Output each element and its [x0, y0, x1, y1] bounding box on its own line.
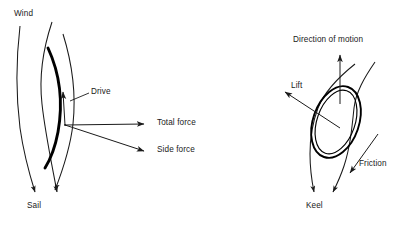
sailing-forces-diagram: Wind Drive Total force Side force Sail D… [0, 0, 405, 226]
lift-label: Lift [291, 82, 302, 90]
side-force-vector [65, 125, 144, 151]
drive-label: Drive [91, 88, 111, 96]
direction-of-motion-label: Direction of motion [293, 36, 363, 44]
keel-label: Keel [306, 202, 323, 210]
keel-streamline-left [310, 64, 355, 192]
keel-panel-group [285, 55, 378, 192]
diagram-canvas [0, 0, 405, 226]
total-force-label: Total force [157, 119, 196, 127]
total-force-vector [65, 124, 144, 125]
sail-label: Sail [27, 202, 41, 210]
sail-panel-group [17, 22, 144, 192]
wind-label: Wind [14, 10, 33, 18]
wind-streamline-outer [17, 26, 35, 192]
side-force-label: Side force [157, 146, 195, 154]
drive-leader-line [70, 93, 89, 101]
friction-label: Friction [359, 160, 387, 168]
sail-section [45, 48, 60, 168]
drive-vector [63, 92, 65, 125]
keel-section-inner [307, 85, 364, 160]
